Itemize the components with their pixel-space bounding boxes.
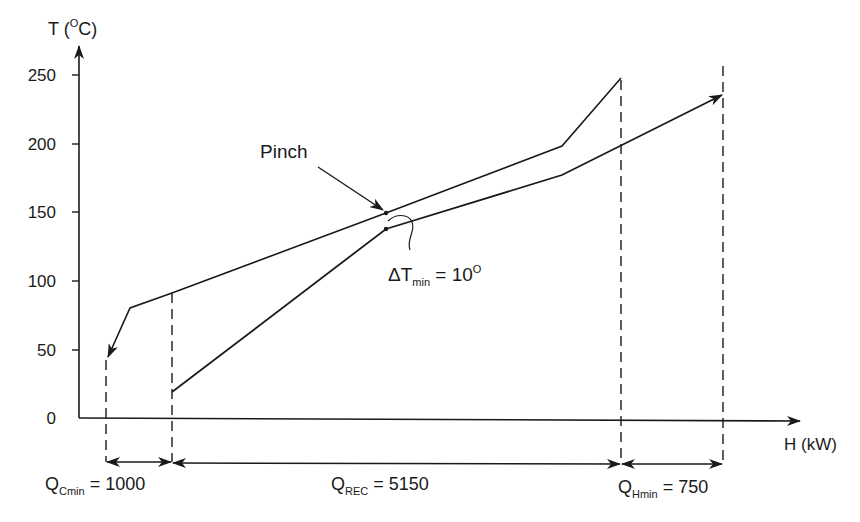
qrec-sub: REC: [345, 485, 368, 497]
dtmin-sub: min: [412, 276, 430, 288]
qrec-label: QREC = 5150: [331, 475, 429, 493]
hot-composite-curve: [108, 78, 621, 357]
y-tick-100: 100: [16, 273, 56, 290]
y-axis: [72, 46, 79, 418]
cold-pinch-point: [384, 227, 388, 231]
y-axis-label: T (OC): [48, 20, 97, 38]
qhmin-value: = 750: [658, 477, 709, 497]
qrec-value: = 5150: [368, 474, 429, 494]
hot-pinch-point: [384, 211, 388, 215]
qcmin-sub: Cmin: [59, 485, 85, 497]
qhmin-sub: Hmin: [632, 488, 658, 500]
y-tick-50: 50: [16, 342, 56, 359]
dtmin-label: ΔTmin = 10O: [388, 265, 481, 284]
y-tick-0: 0: [16, 410, 56, 427]
dashed-guides: [106, 66, 723, 462]
qrec-prefix: Q: [331, 474, 345, 494]
pinch-diagram: [0, 0, 860, 522]
dtmin-prefix: ΔT: [388, 264, 412, 285]
y-axis-label-unit: C): [78, 19, 97, 39]
dtmin-value: = 10: [430, 264, 473, 285]
x-axis-label: H (kW): [784, 436, 837, 453]
y-tick-250: 250: [16, 67, 56, 84]
qcmin-value: = 1000: [85, 474, 146, 494]
pinch-pointer-arrow: [318, 167, 383, 210]
dtmin-bracket: [388, 216, 413, 251]
pinch-label: Pinch: [260, 142, 308, 161]
degree-symbol: O: [70, 17, 79, 29]
y-tick-200: 200: [16, 136, 56, 153]
dimension-lines: [107, 462, 722, 464]
cold-composite-curve: [172, 95, 722, 392]
y-tick-150: 150: [16, 204, 56, 221]
y-axis-label-text: T (: [48, 19, 70, 39]
qhmin-label: QHmin = 750: [618, 478, 708, 496]
qhmin-prefix: Q: [618, 477, 632, 497]
qcmin-prefix: Q: [45, 474, 59, 494]
degree-symbol: O: [473, 263, 482, 275]
x-axis: [79, 418, 800, 421]
qcmin-label: QCmin = 1000: [45, 475, 145, 493]
